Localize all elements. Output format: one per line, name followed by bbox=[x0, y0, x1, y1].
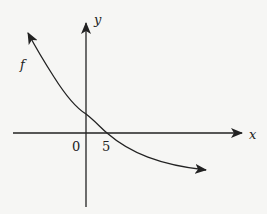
curve-label: f bbox=[19, 57, 27, 72]
origin-label: 0 bbox=[72, 139, 80, 154]
x-axis-label: x bbox=[249, 127, 257, 142]
graph-canvas: x y f 0 5 bbox=[0, 0, 267, 214]
curve-f bbox=[54, 77, 206, 170]
curve-f-upper bbox=[28, 33, 54, 77]
graph-figure: x y f 0 5 bbox=[0, 0, 267, 214]
x-intercept-label: 5 bbox=[102, 139, 110, 154]
y-axis-label: y bbox=[93, 12, 102, 27]
